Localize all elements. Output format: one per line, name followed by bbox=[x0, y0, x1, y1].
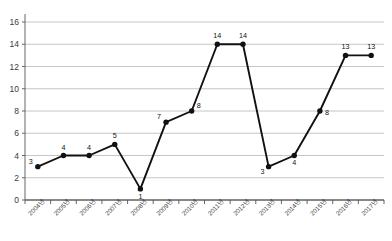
data-point-marker bbox=[215, 42, 220, 47]
x-axis-line bbox=[25, 14, 384, 200]
data-point-marker bbox=[368, 53, 373, 58]
x-axis-tick-marks bbox=[25, 200, 384, 204]
data-point-marker bbox=[343, 53, 348, 58]
data-point-marker bbox=[61, 153, 66, 158]
data-point-marker bbox=[86, 153, 91, 158]
data-point-label: 3 bbox=[29, 157, 33, 166]
data-point-label: 8 bbox=[197, 101, 201, 110]
y-axis-tick-label: 2 bbox=[14, 173, 19, 183]
data-point-marker bbox=[317, 108, 322, 113]
data-point-marker bbox=[189, 108, 194, 113]
y-axis-tick-label: 16 bbox=[10, 17, 20, 27]
data-point-label: 4 bbox=[61, 143, 65, 152]
y-axis-tick-label: 0 bbox=[14, 195, 19, 205]
data-point-marker bbox=[35, 164, 40, 169]
y-axis-tick-label: 8 bbox=[14, 106, 19, 116]
data-point-label: 13 bbox=[367, 42, 375, 51]
y-axis-tick-label: 4 bbox=[14, 151, 19, 161]
data-point-marker bbox=[112, 142, 117, 147]
chart-canvas: 0246810121416 344517814143481313 2004년20… bbox=[0, 0, 392, 241]
data-point-label: 3 bbox=[261, 167, 265, 176]
series-line bbox=[38, 44, 371, 189]
data-point-marker bbox=[266, 164, 271, 169]
y-axis-tick-labels: 0246810121416 bbox=[10, 17, 20, 205]
data-point-marker bbox=[163, 119, 168, 124]
y-axis-tick-label: 12 bbox=[10, 62, 20, 72]
data-point-labels: 344517814143481313 bbox=[29, 31, 375, 201]
data-point-label: 8 bbox=[325, 108, 329, 117]
data-point-label: 13 bbox=[342, 42, 350, 51]
gridlines bbox=[25, 22, 384, 200]
y-axis-tick-label: 10 bbox=[10, 84, 20, 94]
y-axis-tick-label: 14 bbox=[10, 39, 20, 49]
data-point-marker bbox=[240, 42, 245, 47]
data-point-marker bbox=[138, 186, 143, 191]
data-point-label: 7 bbox=[157, 112, 161, 121]
data-point-label: 14 bbox=[213, 31, 221, 40]
line-chart: 0246810121416 344517814143481313 2004년20… bbox=[0, 0, 392, 241]
data-point-label: 14 bbox=[239, 31, 247, 40]
data-point-label: 4 bbox=[292, 158, 296, 167]
data-point-label: 4 bbox=[87, 143, 91, 152]
series-markers bbox=[35, 42, 374, 192]
data-point-label: 5 bbox=[113, 131, 117, 140]
series-line-path bbox=[38, 44, 371, 189]
y-axis-tick-label: 6 bbox=[14, 128, 19, 138]
